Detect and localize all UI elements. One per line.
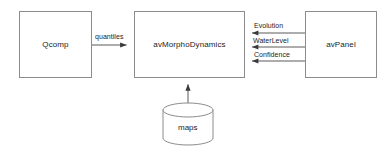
node-avmorphodynamics[interactable]: avMorphoDynamics xyxy=(134,11,245,78)
edge-label-confidence: Confidence xyxy=(254,51,290,58)
edge-label-quantiles: quantiles xyxy=(95,33,123,40)
edge-label-waterlevel: WaterLevel xyxy=(253,37,289,44)
diagram-canvas: Qcomp avMorphoDynamics avPanel maps quan… xyxy=(0,0,392,152)
node-qcomp[interactable]: Qcomp xyxy=(19,11,92,78)
node-avpanel[interactable]: avPanel xyxy=(305,11,377,78)
node-qcomp-label: Qcomp xyxy=(42,41,68,49)
edge-label-evolution: Evolution xyxy=(254,22,283,29)
node-maps-label: maps xyxy=(178,124,198,132)
node-avpanel-label: avPanel xyxy=(326,41,356,49)
node-avmorphodynamics-label: avMorphoDynamics xyxy=(153,41,225,49)
